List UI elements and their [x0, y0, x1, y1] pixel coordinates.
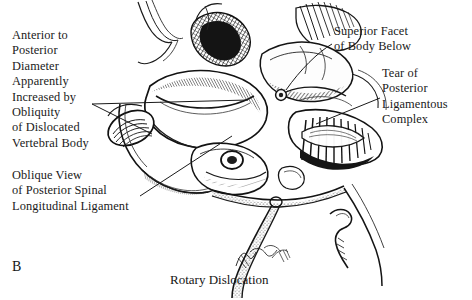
upper-left-spinous-process	[138, 0, 183, 64]
leader-tear-ligamentous	[316, 98, 380, 124]
right-lateral-mass	[286, 70, 386, 110]
artist-signature	[236, 245, 290, 268]
leader-superior-facet	[286, 44, 332, 90]
facet-ring	[221, 151, 243, 169]
vertebral-arch-upper	[191, 4, 250, 66]
posterior-ligamentous-tear-region	[289, 110, 383, 170]
annotation-superior-facet: Superior Facet of Body Below	[334, 24, 464, 55]
medical-illustration-figure: Anterior to Posterior Diameter Apparentl…	[0, 0, 472, 300]
panel-label: B	[12, 259, 21, 275]
figure-caption: Rotary Dislocation	[170, 272, 269, 288]
annotation-anterior-posterior-diameter: Anterior to Posterior Diameter Apparentl…	[12, 28, 144, 151]
annotation-oblique-view: Oblique View of Posterior Spinal Longitu…	[12, 168, 192, 214]
small-facet-fragment	[279, 166, 305, 189]
dislocated-vertebral-body	[145, 71, 268, 149]
inferior-facet-region	[191, 143, 268, 194]
detached-bone-fragment	[330, 210, 352, 269]
superior-facet-knob	[276, 90, 287, 101]
annotation-tear-posterior-ligamentous-complex: Tear of Posterior Ligamentous Complex	[382, 66, 472, 128]
